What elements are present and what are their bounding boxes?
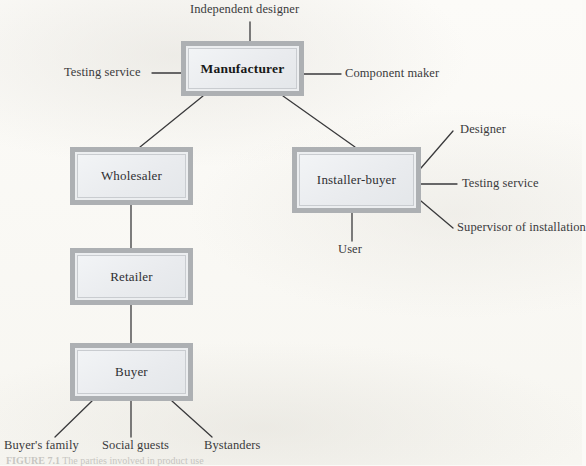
label-bystanders: Bystanders bbox=[204, 438, 261, 453]
node-buyer[interactable]: Buyer bbox=[70, 343, 193, 401]
label-independent-designer: Independent designer bbox=[190, 2, 299, 17]
line-manufacturer-wholesaler bbox=[140, 96, 203, 147]
node-manufacturer-inner: Manufacturer bbox=[188, 48, 297, 89]
node-manufacturer[interactable]: Manufacturer bbox=[181, 41, 304, 96]
figure-caption-text: The parties involved in product use bbox=[62, 455, 203, 466]
node-installer-buyer-inner: Installer-buyer bbox=[299, 154, 414, 206]
label-buyers-family: Buyer's family bbox=[4, 438, 79, 453]
label-social-guests: Social guests bbox=[102, 438, 169, 453]
label-designer: Designer bbox=[460, 122, 506, 137]
line-bystanders bbox=[172, 401, 212, 437]
node-manufacturer-label: Manufacturer bbox=[201, 61, 285, 77]
node-buyer-label: Buyer bbox=[115, 364, 148, 380]
node-installer-buyer-label: Installer-buyer bbox=[317, 172, 396, 188]
label-supervisor-of-installation: Supervisor of installation bbox=[457, 220, 586, 235]
node-retailer[interactable]: Retailer bbox=[70, 248, 193, 305]
line-designer bbox=[421, 131, 453, 168]
figure-number: FIGURE 7.1 bbox=[6, 455, 60, 466]
node-retailer-label: Retailer bbox=[110, 269, 153, 285]
node-retailer-inner: Retailer bbox=[77, 255, 186, 298]
label-testing-service-manufacturer: Testing service bbox=[64, 65, 141, 80]
label-user: User bbox=[338, 242, 362, 257]
node-wholesaler-label: Wholesaler bbox=[101, 168, 162, 184]
line-buyers-family bbox=[55, 401, 92, 437]
label-testing-service-installer: Testing service bbox=[462, 176, 539, 191]
node-buyer-inner: Buyer bbox=[77, 350, 186, 394]
figure-caption: FIGURE 7.1 The parties involved in produ… bbox=[6, 455, 204, 466]
node-installer-buyer[interactable]: Installer-buyer bbox=[292, 147, 421, 213]
line-manufacturer-installer-buyer bbox=[283, 96, 355, 147]
node-wholesaler[interactable]: Wholesaler bbox=[70, 147, 193, 205]
label-component-maker: Component maker bbox=[345, 66, 439, 81]
line-supervisor-of-installation bbox=[421, 201, 453, 228]
node-wholesaler-inner: Wholesaler bbox=[77, 154, 186, 198]
